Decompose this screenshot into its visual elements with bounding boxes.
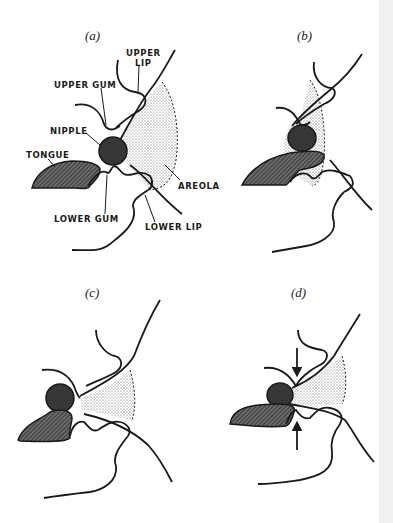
- areola-shape: [120, 82, 177, 190]
- figure-drawing: [0, 0, 393, 523]
- label-lower-gum: LOWER GUM: [54, 214, 119, 224]
- panel-c-drawing: [18, 300, 172, 498]
- panel-b-drawing: [242, 54, 372, 252]
- panel-label-b: (b): [297, 28, 312, 44]
- panel-d-drawing: [230, 314, 374, 484]
- panel-label-a: (a): [85, 28, 100, 44]
- nipple-shape: [99, 137, 127, 165]
- figure-page: (a) (b) (c) (d) UPPER LIP UPPER GUM NIPP…: [0, 0, 393, 523]
- label-upper-gum: UPPER GUM: [54, 80, 116, 90]
- panel-label-d: (d): [291, 285, 306, 301]
- label-upper-lip-line1: UPPER: [126, 48, 161, 58]
- label-nipple: NIPPLE: [50, 126, 88, 136]
- label-tongue: TONGUE: [26, 150, 69, 160]
- label-areola: AREOLA: [178, 181, 220, 191]
- panel-label-c: (c): [85, 285, 99, 301]
- label-upper-lip-line2: LIP: [126, 58, 161, 68]
- label-upper-lip: UPPER LIP: [126, 48, 161, 68]
- label-lower-lip: LOWER LIP: [145, 222, 202, 232]
